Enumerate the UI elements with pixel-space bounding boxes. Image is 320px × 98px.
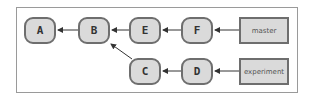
commit-e: E xyxy=(129,17,161,44)
commit-f: F xyxy=(181,17,213,44)
edge-c-to-b xyxy=(111,44,132,59)
branch-experiment: experiment xyxy=(239,58,289,85)
commit-b: B xyxy=(78,17,110,44)
commit-d: D xyxy=(181,58,213,85)
commit-c: C xyxy=(129,58,161,85)
commit-a: A xyxy=(24,17,56,44)
branch-master: master xyxy=(239,17,289,44)
